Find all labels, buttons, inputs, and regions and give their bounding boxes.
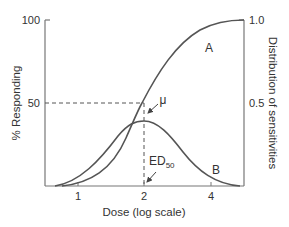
x-label-4: 4 [208, 190, 214, 202]
dose-response-chart: 100 50 1.0 0.5 1 2 4 Dose (log scale) % … [0, 0, 289, 227]
ed50-label: ED50 [149, 154, 175, 170]
tick-labels: 100 50 1.0 0.5 1 2 4 [22, 14, 265, 202]
y-right-label-10: 1.0 [249, 14, 264, 26]
mu-arrow [148, 104, 158, 113]
y-right-axis-title: Distribution of sensitivities [267, 37, 279, 170]
y-left-axis-title: % Responding [10, 66, 22, 141]
ed50-label-main: ED [149, 154, 166, 168]
curve-b-label: B [212, 163, 220, 177]
y-left-label-100: 100 [22, 14, 40, 26]
x-axis-title: Dose (log scale) [102, 206, 185, 218]
ed50-arrow [147, 172, 156, 182]
curve-a-label: A [205, 41, 213, 55]
y-right-label-05: 0.5 [249, 97, 264, 109]
mu-label: μ [160, 93, 167, 107]
reference-lines [45, 103, 144, 186]
x-label-1: 1 [75, 190, 81, 202]
y-left-label-50: 50 [28, 97, 40, 109]
chart-svg: 100 50 1.0 0.5 1 2 4 Dose (log scale) % … [0, 0, 289, 227]
ed50-label-subscript: 50 [166, 161, 175, 170]
x-label-2: 2 [141, 190, 147, 202]
